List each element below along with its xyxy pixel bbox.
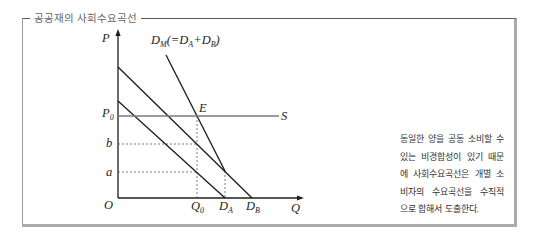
- curve-db: [118, 67, 252, 198]
- q0-label-sub: 0: [200, 206, 204, 215]
- x-axis-label: Q: [291, 201, 300, 215]
- origin-label: O: [104, 198, 113, 212]
- a-price-label: a: [106, 165, 112, 179]
- note-line: 있는 비경합성이 있기 때문: [400, 149, 504, 167]
- q0-label: Q0: [191, 199, 204, 215]
- p0-label-main: P: [101, 106, 110, 120]
- note-line: 비자의 수요곡선을 수직적: [400, 184, 504, 202]
- explanation-note: 동일한 양을 공동 소비할 수 있는 비경합성이 있기 때문 에 사회수요곡선은…: [400, 131, 504, 219]
- equilibrium-point-label: E: [198, 101, 207, 115]
- x-axis-label-text: Q: [291, 201, 300, 215]
- q0-label-main: Q: [191, 199, 200, 213]
- y-axis-label-text: P: [101, 31, 110, 45]
- dm-curve-label: DM(=DA+DB): [150, 33, 220, 49]
- plot-area: [115, 29, 304, 201]
- p0-label: P0: [101, 106, 114, 122]
- note-line: 동일한 양을 공동 소비할 수: [400, 131, 504, 149]
- origin-label-text: O: [104, 198, 113, 212]
- e-label-text: E: [198, 101, 207, 115]
- a-label-text: a: [106, 165, 112, 179]
- dm-label-plus-d: +D: [193, 33, 210, 47]
- x-axis-arrow-icon: [297, 195, 304, 200]
- db-label-sub: B: [255, 206, 260, 215]
- da-label-main: D: [218, 199, 228, 213]
- b-label-text: b: [106, 136, 112, 150]
- da-intercept-label: DA: [218, 199, 233, 215]
- y-axis-label: P: [101, 31, 110, 45]
- da-label-sub: A: [227, 206, 233, 215]
- dm-label-eq-d: (=D: [167, 33, 189, 47]
- y-axis-arrow-icon: [115, 29, 120, 36]
- note-line: 으로 합해서 도출한다.: [400, 201, 504, 219]
- dm-label-close-paren: ): [215, 33, 220, 47]
- curve-dm: [166, 55, 225, 171]
- b-price-label: b: [106, 136, 112, 150]
- p0-label-sub: 0: [110, 113, 114, 122]
- db-label-main: D: [245, 199, 255, 213]
- s-label-text: S: [281, 109, 288, 123]
- note-line: 에 사회수요곡선은 개별 소: [400, 166, 504, 184]
- dm-label-d: D: [150, 33, 160, 47]
- supply-line-label: S: [281, 109, 288, 123]
- db-intercept-label: DB: [245, 199, 260, 215]
